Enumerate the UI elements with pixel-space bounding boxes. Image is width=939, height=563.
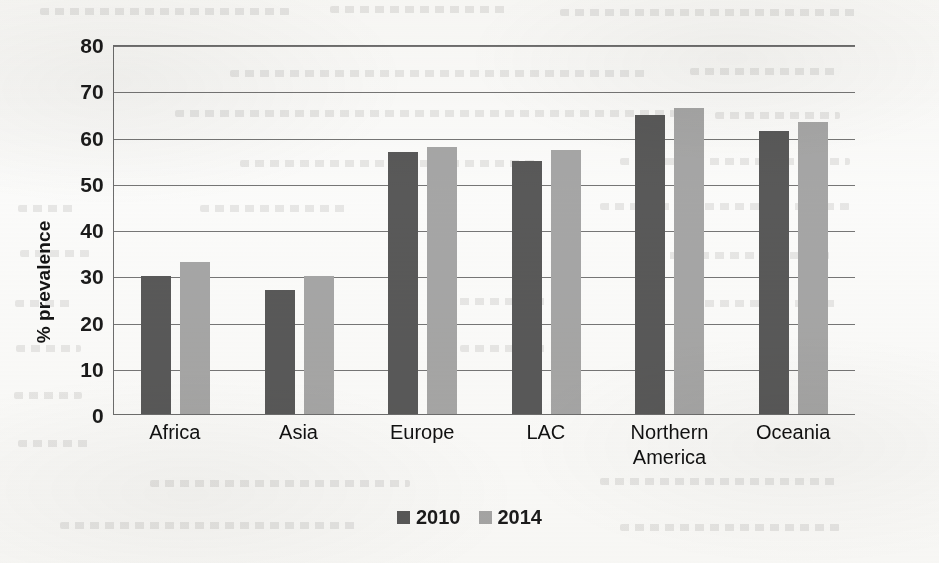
y-axis-title: % prevalence (33, 220, 55, 343)
bar (674, 108, 704, 414)
bar (798, 122, 828, 414)
bar (427, 147, 457, 414)
legend-item[interactable]: 2014 (479, 506, 543, 529)
bar (180, 262, 210, 414)
x-axis-category-labels: AfricaAsiaEuropeLACNorthernAmericaOceani… (113, 420, 855, 470)
legend-swatch-icon (479, 511, 492, 524)
y-axis-tick-label: 60 (80, 127, 104, 151)
y-axis-tick-label: 80 (80, 34, 104, 58)
bar-groups (114, 46, 855, 414)
bar-group (485, 46, 609, 414)
bar (759, 131, 789, 414)
bar-group (732, 46, 856, 414)
legend-label: 2010 (416, 506, 461, 529)
bar (551, 150, 581, 415)
legend-swatch-icon (397, 511, 410, 524)
x-axis-category-label: NorthernAmerica (608, 420, 732, 470)
legend-item[interactable]: 2010 (397, 506, 461, 529)
y-axis-tick-label: 50 (80, 173, 104, 197)
x-axis-category-label: Oceania (731, 420, 855, 470)
bar-group (238, 46, 362, 414)
chart-legend: 20102014 (0, 506, 939, 529)
y-axis-tick-label: 30 (80, 265, 104, 289)
y-axis-tick-label: 10 (80, 358, 104, 382)
x-axis-category-label: Africa (113, 420, 237, 470)
bar (265, 290, 295, 414)
bar (304, 276, 334, 414)
y-axis-tick-label: 0 (92, 404, 104, 428)
legend-label: 2014 (498, 506, 543, 529)
y-axis-tick-label: 40 (80, 219, 104, 243)
bar (512, 161, 542, 414)
chart-page: % prevalence 01020304050607080 AfricaAsi… (0, 0, 939, 563)
bar-group (608, 46, 732, 414)
x-axis-category-label: LAC (484, 420, 608, 470)
x-axis-category-label: Europe (360, 420, 484, 470)
bar (388, 152, 418, 414)
bar-group (114, 46, 238, 414)
plot-area: 01020304050607080 (113, 45, 855, 415)
bar (635, 115, 665, 414)
bar-group (361, 46, 485, 414)
y-axis-tick-label: 70 (80, 80, 104, 104)
x-axis-category-label: Asia (237, 420, 361, 470)
y-axis-tick-label: 20 (80, 312, 104, 336)
bar (141, 276, 171, 414)
